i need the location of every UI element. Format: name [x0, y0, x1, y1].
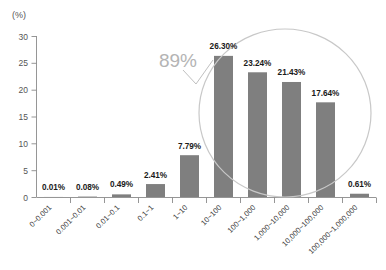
- bar-value-label-8: 17.64%: [312, 89, 340, 98]
- x-tick-label-1: 0.001~0.01: [54, 203, 87, 236]
- highlight-percentage-label: 89%: [159, 50, 197, 71]
- bar-9: [350, 194, 369, 197]
- x-tick-label-6: 100~1,000: [226, 203, 258, 235]
- bar-2: [112, 194, 131, 197]
- x-tick-label-5: 10~100: [199, 203, 223, 227]
- bar-7: [282, 82, 301, 197]
- y-tick-label: 5: [23, 166, 28, 176]
- bar-value-label-2: 0.49%: [110, 180, 134, 189]
- bar-value-label-6: 23.24%: [244, 59, 272, 68]
- y-tick-label: 25: [19, 58, 29, 68]
- x-tick-label-0: 0~0.001: [27, 203, 53, 229]
- y-tick-label: 10: [19, 139, 29, 149]
- y-tick-label: 15: [19, 112, 29, 122]
- y-axis-ticks: [32, 37, 37, 198]
- chart-canvas: 0 5 10 15 20 25 30: [0, 0, 386, 270]
- bar-value-label-7: 21.43%: [278, 68, 306, 77]
- bar-value-label-3: 2.41%: [144, 171, 168, 180]
- bar-5: [214, 56, 233, 197]
- bar-series: [44, 56, 369, 197]
- x-tick-label-4: 1~10: [171, 203, 189, 221]
- bar-3: [146, 184, 165, 197]
- bar-value-label-4: 7.79%: [178, 142, 202, 151]
- x-tick-label-3: 0.1~1: [135, 203, 155, 223]
- y-axis-tick-labels: 0 5 10 15 20 25 30: [19, 32, 29, 203]
- x-axis-ticks: [71, 198, 377, 204]
- bar-4: [180, 155, 199, 197]
- x-tick-label-2: 0.01~0.1: [94, 203, 121, 230]
- bar-chart-figure: (%) 0 5 10 15 20 25 30: [0, 0, 386, 270]
- y-tick-label: 0: [23, 193, 28, 203]
- y-tick-label: 30: [19, 32, 29, 42]
- bar-value-label-0: 0.01%: [42, 183, 66, 192]
- bar-value-label-9: 0.61%: [348, 180, 372, 189]
- bar-6: [248, 72, 267, 197]
- bar-value-label-1: 0.08%: [76, 183, 100, 192]
- x-axis-category-labels: 0~0.001 0.001~0.01 0.01~0.1 0.1~1 1~10 1…: [27, 203, 359, 256]
- y-tick-label: 20: [19, 85, 29, 95]
- bar-value-label-5: 26.30%: [210, 42, 238, 51]
